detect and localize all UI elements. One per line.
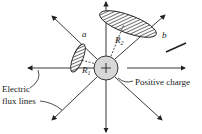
label-r1: R1 (81, 65, 91, 76)
electric-flux-diagram: a b R1 R2 Positive charge Electric flux … (0, 0, 202, 134)
flux-leader-2 (40, 101, 62, 110)
flux-line-downleft (52, 77, 97, 120)
label-positive-charge: Positive charge (135, 77, 190, 87)
label-b: b (162, 30, 167, 40)
label-r2: R2 (114, 35, 124, 46)
flux-leader-1 (30, 70, 39, 88)
pointer-line (166, 43, 186, 52)
label-electric: Electric (2, 84, 30, 94)
label-flux-lines: flux lines (2, 96, 36, 106)
label-a: a (82, 29, 87, 39)
